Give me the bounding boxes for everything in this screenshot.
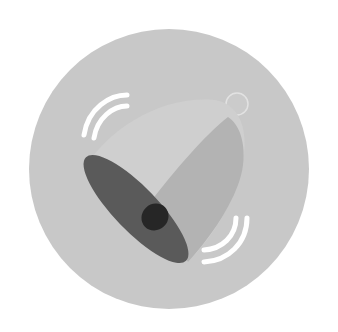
notification-bell-badge <box>0 0 338 332</box>
ringing-bell-icon <box>0 0 338 332</box>
